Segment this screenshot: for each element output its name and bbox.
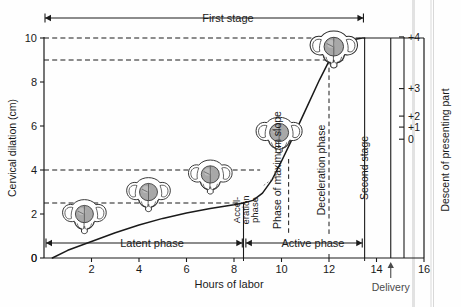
arrow-head-left	[45, 15, 51, 21]
y-tick-label: 8	[31, 76, 37, 88]
friedman-labor-curve-figure: 0246810Cervical dilation (cm)02468101214…	[0, 0, 461, 307]
x-tick-label: 14	[370, 263, 382, 275]
right-tick-label: +4	[408, 31, 420, 43]
scan-band	[430, 0, 432, 307]
y-tick-label: 10	[25, 32, 37, 44]
right-axis: +4+3+2+10	[399, 31, 420, 258]
x-tick-label: 0	[31, 252, 37, 264]
x-tick-label: 8	[231, 263, 237, 275]
x-tick-label: 10	[275, 263, 287, 275]
right-tick-label: +1	[408, 121, 420, 133]
y-axis-ticks: 0246810	[25, 32, 44, 264]
delivery-arrow-head	[388, 262, 394, 268]
x-tick-label: 16	[418, 263, 430, 275]
right-tick-label: 0	[408, 133, 414, 145]
right-axis-title: Descent of presenting part	[439, 88, 451, 211]
pelvis-station-1	[127, 178, 171, 212]
deceleration-phase-label: Deceleration phase	[315, 125, 327, 216]
x-tick-label: 12	[323, 263, 335, 275]
x-tick-label: 2	[88, 263, 94, 275]
arrow-head-left	[46, 240, 52, 246]
y-tick-label: 6	[31, 120, 37, 132]
second-stage-label: Second stage	[358, 136, 370, 200]
acceleration-phase-label-line3: phase	[249, 197, 260, 223]
pelvis-station-2	[188, 160, 232, 194]
y-tick-label: 2	[31, 208, 37, 220]
x-tick-label: 6	[183, 263, 189, 275]
arrow-head-right	[357, 15, 363, 21]
pelvis-station-0	[63, 200, 107, 234]
scan-artifact	[412, 0, 434, 307]
pelvis-station-4	[310, 31, 357, 68]
x-axis-title: Hours of labor	[194, 278, 263, 290]
delivery-label: Delivery	[372, 281, 411, 293]
max-slope-phase-label: Phase of maximum slope	[271, 111, 283, 229]
x-tick-label: 4	[136, 263, 142, 275]
right-tick-label: +3	[408, 82, 420, 94]
y-tick-label: 4	[31, 164, 37, 176]
x-axis-ticks: 0246810121416	[31, 252, 430, 275]
labor-curve-chart: 0246810Cervical dilation (cm)02468101214…	[0, 0, 461, 307]
arrow-head-right	[356, 240, 362, 246]
y-axis-title: Cervical dilation (cm)	[6, 99, 18, 197]
scan-band	[412, 0, 415, 307]
arrow-head-left	[246, 240, 252, 246]
arrow-head-right	[236, 240, 242, 246]
